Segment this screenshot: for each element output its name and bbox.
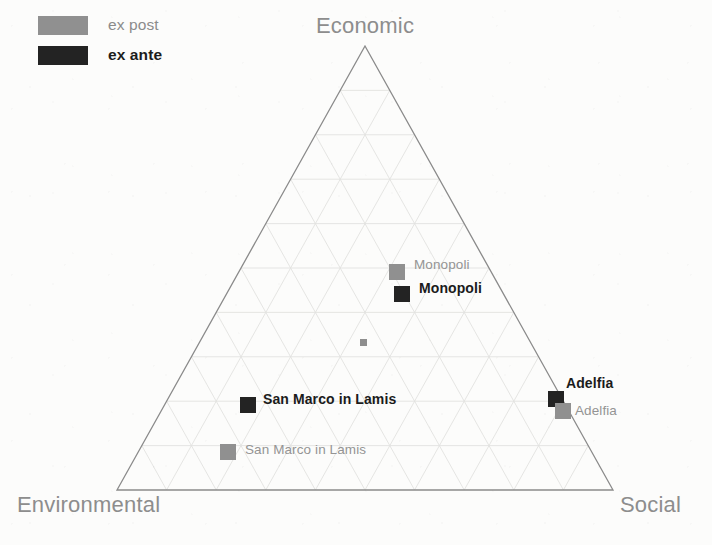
- point-label-san-marco-in-lamis-ex-ante: San Marco in Lamis: [263, 391, 396, 407]
- point-label-adelfia-ex-post: Adelfia: [575, 403, 617, 418]
- marker-unlabeled-center[interactable]: [360, 339, 367, 346]
- marker-san-marco-in-lamis-ex-post[interactable]: [220, 444, 236, 460]
- marker-adelfia-ex-post[interactable]: [555, 403, 571, 419]
- ternary-diagram-svg: [0, 0, 712, 545]
- legend-swatch-ex-post: [38, 16, 88, 35]
- axis-title-social: Social: [620, 492, 681, 518]
- point-label-san-marco-in-lamis-ex-post: San Marco in Lamis: [245, 442, 366, 457]
- ternary-gridlines: [142, 90, 588, 490]
- marker-monopoli-ex-post[interactable]: [389, 264, 405, 280]
- legend: ex post ex ante: [38, 10, 268, 70]
- axis-title-economic: Economic: [290, 13, 440, 39]
- legend-item-ex-ante[interactable]: ex ante: [38, 40, 268, 70]
- point-label-adelfia-ex-ante: Adelfia: [566, 375, 613, 391]
- marker-san-marco-in-lamis-ex-ante[interactable]: [240, 397, 256, 413]
- axis-title-environmental: Environmental: [17, 492, 160, 518]
- marker-monopoli-ex-ante[interactable]: [394, 286, 410, 302]
- legend-label-ex-post: ex post: [108, 16, 159, 34]
- point-label-monopoli-ex-ante: Monopoli: [419, 280, 482, 296]
- ternary-plot-figure: ex post ex ante Economic Environmental S…: [0, 0, 712, 545]
- legend-swatch-ex-ante: [38, 46, 88, 65]
- point-label-monopoli-ex-post: Monopoli: [414, 257, 470, 272]
- legend-label-ex-ante: ex ante: [108, 46, 162, 64]
- legend-item-ex-post[interactable]: ex post: [38, 10, 268, 40]
